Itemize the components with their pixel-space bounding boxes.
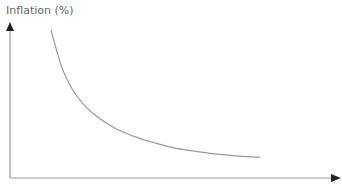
y-axis-arrow-icon: [6, 22, 14, 31]
chart: Inflation (%): [0, 0, 342, 186]
series-line-curve: [51, 30, 260, 157]
x-axis-arrow-icon: [331, 174, 341, 182]
y-axis-label: Inflation (%): [6, 4, 74, 17]
